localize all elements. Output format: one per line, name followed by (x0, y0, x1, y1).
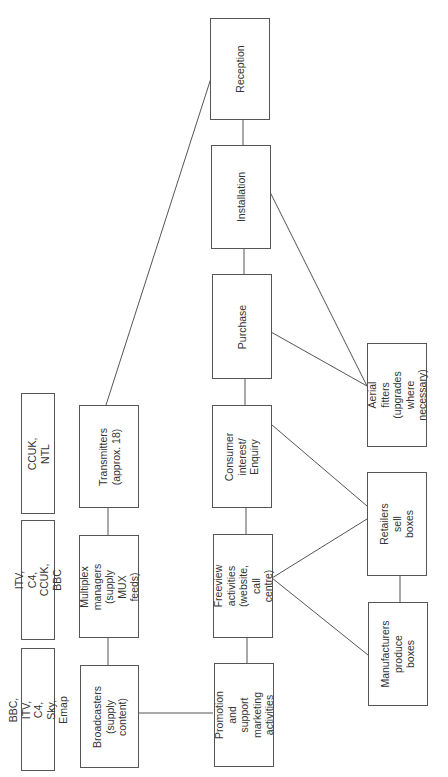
transmitters-box: Transmitters (approx. 18) (79, 405, 139, 508)
manufacturers-label: Manufacturers produce boxes (379, 620, 417, 687)
edge-freeview-manufacturers (272, 578, 368, 655)
promotion-box: Promotion and support marketing activiti… (214, 663, 274, 767)
multiplex-label: Multiplex managers (supply MUX feeds) (78, 563, 141, 610)
purchase-box: Purchase (212, 274, 272, 379)
installation-label: Installation (235, 172, 248, 222)
edge-purchase-aerial-fitters (271, 332, 367, 386)
transmitters-label: Transmitters (approx. 18) (97, 428, 122, 486)
aerial-fitters-box: Aerial fitters (upgrades where necessary… (367, 343, 427, 447)
broadcasters-label: Broadcasters (supply content) (91, 686, 129, 748)
freeview-box: Freeview activities (website, call centr… (213, 534, 273, 638)
multiplex-box: Multiplex managers (supply MUX feeds) (79, 535, 139, 638)
owners-broadcasters-box: BBC, ITV, C4, Sky, Emap (21, 648, 55, 771)
promotion-label: Promotion and support marketing activiti… (213, 691, 276, 739)
edge-freeview-retailers (272, 519, 367, 578)
aerial-fitters-label: Aerial fitters (upgrades where necessary… (366, 369, 429, 420)
edge-transmitters-reception (106, 75, 212, 405)
owners-transmitters-box: CCUK, NTL (21, 393, 55, 514)
retailers-label: Retailers sell boxes (378, 503, 416, 544)
edge-installation-aerial-fitters (270, 192, 367, 386)
purchase-label: Purchase (236, 304, 249, 348)
installation-box: Installation (211, 145, 271, 249)
retailers-box: Retailers sell boxes (367, 472, 427, 576)
consumer-interest-box: Consumer interest/ Enquiry (212, 405, 272, 508)
owners-transmitters-label: CCUK, NTL (26, 437, 51, 470)
freeview-label: Freeview activities (website, call centr… (212, 565, 275, 608)
broadcasters-box: Broadcasters (supply content) (80, 665, 139, 768)
owners-broadcasters-label: BBC, ITV, C4, Sky, Emap (7, 696, 70, 723)
owners-multiplex-box: ITV, C4, CCUK, BBC (21, 520, 55, 640)
reception-label: Reception (234, 45, 247, 92)
consumer-interest-label: Consumer interest/ Enquiry (223, 432, 261, 480)
owners-multiplex-label: ITV, C4, CCUK, BBC (13, 564, 63, 597)
edge-consumer-interest-retailers (272, 425, 367, 506)
manufacturers-box: Manufacturers produce boxes (368, 602, 428, 706)
reception-box: Reception (210, 18, 270, 120)
